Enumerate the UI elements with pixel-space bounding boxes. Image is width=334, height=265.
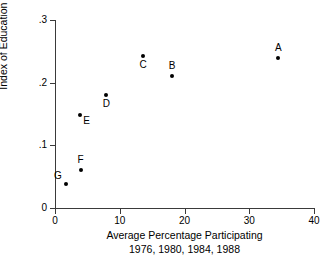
x-tick-label: 20 <box>179 216 190 226</box>
x-tick-mark <box>249 209 250 214</box>
data-point-label: F <box>77 155 83 165</box>
x-tick-label: 30 <box>244 216 255 226</box>
x-tick-mark <box>55 209 56 214</box>
data-point-label: E <box>83 116 90 126</box>
y-tick-label: .2 <box>39 78 47 88</box>
y-tick-label: 0 <box>41 203 47 213</box>
data-point-label: G <box>54 171 62 181</box>
x-tick-label: 10 <box>114 216 125 226</box>
data-point-marker <box>276 56 280 60</box>
x-tick-mark <box>120 209 121 214</box>
scatter-plot-figure: 0.1.2.3 010203040 ABCDEFG Index of Educa… <box>0 0 334 265</box>
x-axis-title: Average Percentage Participating 1976, 1… <box>55 228 314 256</box>
data-point-marker <box>79 168 83 172</box>
y-tick-mark <box>50 83 55 84</box>
data-point-label: C <box>140 60 147 70</box>
data-point-label: D <box>103 99 110 109</box>
x-tick-mark <box>185 209 186 214</box>
x-axis-title-line1: Average Percentage Participating <box>55 228 314 242</box>
x-tick-mark <box>314 209 315 214</box>
x-axis-title-line2: 1976, 1980, 1984, 1988 <box>55 242 314 256</box>
data-point-marker <box>170 74 174 78</box>
y-tick-mark <box>50 145 55 146</box>
y-axis-title: Index of Education Equality <box>0 0 9 116</box>
y-tick-mark <box>50 20 55 21</box>
x-tick-label: 0 <box>52 216 58 226</box>
y-tick-label: .3 <box>39 15 47 25</box>
data-point-marker <box>104 93 108 97</box>
plot-area: 0.1.2.3 010203040 ABCDEFG <box>55 20 314 208</box>
x-tick-label: 40 <box>308 216 319 226</box>
data-point-label: A <box>275 43 282 53</box>
data-point-marker <box>64 182 68 186</box>
data-point-marker <box>141 54 145 58</box>
y-tick-label: .1 <box>39 140 47 150</box>
data-point-marker <box>78 113 82 117</box>
data-point-label: B <box>169 61 176 71</box>
